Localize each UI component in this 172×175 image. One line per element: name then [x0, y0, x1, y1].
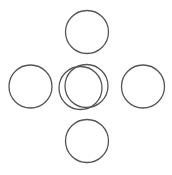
- circle-right: [122, 65, 165, 108]
- circle-arrangement-diagram: [0, 0, 172, 175]
- circle-left: [9, 65, 52, 108]
- circle-bottom: [66, 120, 109, 163]
- circle-top: [66, 11, 109, 54]
